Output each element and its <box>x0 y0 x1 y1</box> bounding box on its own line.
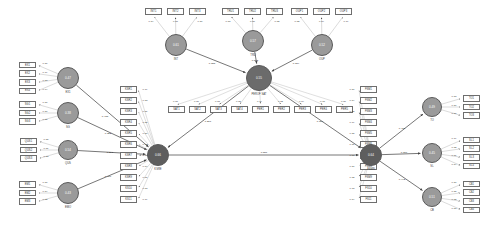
path-coefficient: 0.442 <box>399 178 405 181</box>
loading-coefficient: 0.82 <box>452 145 457 148</box>
loading-coefficient: 0.82 <box>452 198 457 201</box>
loading-coefficient: 0.83 <box>452 95 457 98</box>
latent-variable-l4: 0.43 <box>57 182 79 204</box>
loading-coefficient: 0.82 <box>295 19 300 22</box>
latent-label-r2: SL <box>430 165 433 168</box>
loading-coefficient: 0.79 <box>344 19 349 22</box>
indicator-box: SAT2 <box>189 106 206 113</box>
loading-coefficient: 0.83 <box>226 19 231 22</box>
indicator-box: SAT3 <box>210 106 227 113</box>
indicator-box: SG2 <box>19 110 36 117</box>
indicator-box: SL1 <box>463 137 480 144</box>
path-coefficient: 0.438 <box>102 115 108 118</box>
latent-variable-r1: 0.49 <box>422 97 442 117</box>
loading-coefficient: 0.81 <box>143 109 148 112</box>
loading-coefficient: 0.85 <box>44 138 49 141</box>
indicator-box: SL2 <box>463 145 480 152</box>
indicator-box: EX2 <box>19 70 36 77</box>
indicator-box: SL3 <box>463 154 480 161</box>
indicator-box: FSM4 <box>360 119 377 126</box>
loading-coefficient: 0.81 <box>350 142 355 145</box>
loading-coefficient: 0.87 <box>43 101 48 104</box>
path-coefficient: 0.334 <box>293 62 299 65</box>
indicator-box: TRU3 <box>266 8 283 15</box>
latent-label-r1: TO <box>430 119 434 122</box>
indicator-box: KSR5 <box>120 130 137 137</box>
loading-coefficient: 0.86 <box>250 19 255 22</box>
loading-coefficient: 0.81 <box>452 154 457 157</box>
indicator-box: KSR1 <box>120 86 137 93</box>
indicator-box: PER4 <box>315 106 332 113</box>
loading-coefficient: 0.88 <box>44 155 49 158</box>
indicator-box: TRU1 <box>222 8 239 15</box>
indicator-box: QUS3 <box>20 155 37 162</box>
latent-variable-l2: 0.38 <box>57 102 79 124</box>
loading-coefficient: 0.85 <box>452 189 457 192</box>
latent-label-l2: SG <box>66 126 70 129</box>
loading-coefficient: 0.80 <box>43 109 48 112</box>
indicator-box: FSM2 <box>360 97 377 104</box>
loading-coefficient: 0.78 <box>350 186 355 189</box>
indicator-box: FSM9 <box>360 174 377 181</box>
loading-coefficient: 0.78 <box>320 99 325 102</box>
latent-label-t3: OUP <box>319 58 325 61</box>
indicator-box: KSR8 <box>120 163 137 170</box>
loading-coefficient: 0.85 <box>236 99 241 102</box>
indicator-box: CB1 <box>463 181 480 188</box>
latent-variable-h2: 0.64 <box>360 144 382 166</box>
indicator-box: FS10 <box>360 185 377 192</box>
loading-coefficient: 0.84 <box>299 99 304 102</box>
loading-coefficient: 0.84 <box>319 19 324 22</box>
latent-variable-t3: 0.52 <box>311 34 333 56</box>
indicator-box: QUS2 <box>20 147 37 154</box>
loading-coefficient: 0.83 <box>143 98 148 101</box>
sem-path-diagram: EX1EX2EX3EX4SG1SG2SG3QUS1QUS2QUS3EM1EM2E… <box>0 0 497 237</box>
loading-coefficient: 0.81 <box>44 146 49 149</box>
indicator-box: KSR4 <box>120 119 137 126</box>
latent-label-h1: KSRE <box>154 168 161 171</box>
indicator-box: SL4 <box>463 163 480 170</box>
loading-coefficient: 0.80 <box>341 99 346 102</box>
loading-coefficient: 0.80 <box>194 99 199 102</box>
indicator-box: INT3 <box>189 8 206 15</box>
loading-coefficient: 0.83 <box>215 99 220 102</box>
loading-coefficient: 0.79 <box>143 197 148 200</box>
loading-coefficient: 0.74 <box>43 87 48 90</box>
indicator-box: KSR3 <box>120 108 137 115</box>
loading-coefficient: 0.80 <box>350 87 355 90</box>
loading-coefficient: 0.81 <box>173 99 178 102</box>
path-coefficient: 0.502 <box>252 59 258 62</box>
path-coefficient: 0.267 <box>205 120 211 123</box>
indicator-box: FS11 <box>360 196 377 203</box>
loading-coefficient: 0.83 <box>43 79 48 82</box>
indicator-box: TO2 <box>463 104 480 111</box>
latent-variable-l1: 0.47 <box>57 67 79 89</box>
loading-coefficient: 0.82 <box>350 109 355 112</box>
loading-coefficient: 0.79 <box>452 136 457 139</box>
indicator-box: KSR6 <box>120 141 137 148</box>
indicator-box: EM1 <box>19 181 36 188</box>
indicator-box: OUP3 <box>335 8 352 15</box>
loading-coefficient: 0.79 <box>143 87 148 90</box>
indicator-box: SG3 <box>19 118 36 125</box>
latent-variable-t2: 0.57 <box>242 30 264 52</box>
latent-variable-t1: 0.61 <box>165 34 187 56</box>
latent-variable-h1: 0.66 <box>147 144 169 166</box>
latent-label-l3: QUS <box>65 162 71 165</box>
latent-label-h2: FSMN <box>367 168 375 171</box>
indicator-box: INT1 <box>145 8 162 15</box>
indicator-box: EX1 <box>19 62 36 69</box>
loading-coefficient: 0.82 <box>143 142 148 145</box>
loading-coefficient: 0.84 <box>143 164 148 167</box>
loading-coefficient: 0.86 <box>43 61 48 64</box>
indicator-box: SG1 <box>19 101 36 108</box>
loading-coefficient: 0.85 <box>350 131 355 134</box>
path-coefficient: 0.406 <box>105 175 111 178</box>
indicator-box: CB2 <box>463 189 480 196</box>
loading-coefficient: 0.86 <box>452 112 457 115</box>
indicator-box: SAT4 <box>231 106 248 113</box>
loading-coefficient: 0.80 <box>350 164 355 167</box>
loading-coefficient: 0.84 <box>452 162 457 165</box>
path-coefficient: 0.291 <box>107 151 113 154</box>
loading-coefficient: 0.80 <box>198 19 203 22</box>
